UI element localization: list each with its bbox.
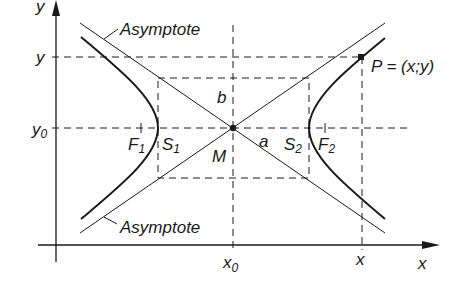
hyperbola-diagram: y x y y0 x0 x Asymptote Asymptote P = (x…	[0, 0, 463, 295]
y-axis-arrow-icon	[52, 0, 60, 16]
x0-tick-label: x0	[222, 253, 239, 275]
x-tick-label: x	[355, 250, 365, 269]
asymptote-bottom-label: Asymptote	[119, 218, 200, 237]
point-p	[358, 54, 364, 60]
asymptote-top-label: Asymptote	[119, 20, 200, 39]
asymptote-top-leader	[104, 29, 118, 39]
focus-f1-label: F1	[128, 135, 145, 156]
asymptote-bottom-leader	[104, 217, 117, 224]
semi-axis-b-label: b	[217, 88, 226, 107]
center-m-label: M	[212, 147, 227, 166]
y-tick-label: y	[35, 48, 46, 67]
y0-tick-label: y0	[31, 120, 48, 141]
x-axis-arrow-icon	[422, 241, 440, 249]
point-p-label: P = (x;y)	[371, 57, 434, 76]
x-axis-label: x	[417, 254, 427, 273]
center-point-m	[230, 125, 236, 131]
y-axis-label: y	[35, 0, 46, 16]
focus-f2-label: F2	[318, 135, 335, 156]
vertex-s2-label: S2	[284, 135, 302, 156]
vertex-s1-label: S1	[162, 135, 180, 156]
axes	[38, 0, 440, 262]
semi-axis-a-label: a	[259, 132, 268, 151]
